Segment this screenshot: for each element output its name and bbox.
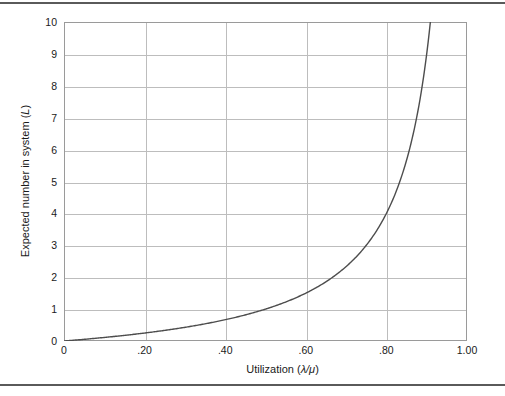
x-axis-tick-labels: 0.20.40.60.801.00 (64, 345, 467, 361)
y-axis-title-text: Expected number in system (19, 121, 31, 257)
x-tick-label: 1.00 (437, 345, 497, 356)
x-tick-label: 0 (34, 345, 94, 356)
y-axis-title-paren: ( (19, 115, 31, 122)
y-tick-label: 9 (13, 49, 57, 60)
curve-container (64, 22, 467, 341)
bottom-horizontal-rule (0, 384, 505, 386)
top-horizontal-rule (0, 2, 505, 4)
x-tick-label: .20 (115, 345, 175, 356)
chart-figure: 012345678910 0.20.40.60.801.00 Utilizati… (0, 0, 505, 396)
y-tick-label: 10 (13, 17, 57, 28)
x-tick-label: .40 (195, 345, 255, 356)
x-axis-title-symbol: λ/μ (301, 363, 316, 375)
x-axis-title-paren-close: ) (315, 363, 319, 375)
x-axis-title: Utilization (λ/μ) (0, 363, 505, 375)
y-axis-title-paren-close: ) (19, 105, 31, 109)
x-tick-label: .80 (356, 345, 416, 356)
x-axis-title-text: Utilization (246, 363, 294, 375)
y-axis-title: Expected number in system (L) (19, 61, 31, 301)
queueing-curve (64, 22, 467, 341)
curve-path-L-vs-rho (64, 22, 430, 341)
y-axis-title-symbol: L (19, 109, 31, 115)
x-tick-label: .60 (276, 345, 336, 356)
x-axis-title-paren: ( (294, 363, 301, 375)
y-tick-label: 1 (13, 304, 57, 315)
